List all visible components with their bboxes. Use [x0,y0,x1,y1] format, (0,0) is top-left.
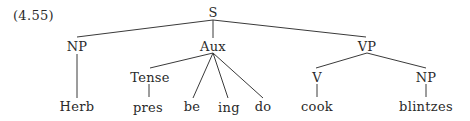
edge-s-np [77,20,213,37]
example-number: (4.55) [13,9,54,22]
edge-aux-be [193,53,213,98]
node-tense: Tense [130,71,170,84]
node-vp: VP [358,40,377,53]
leaf-herb: Herb [60,100,95,113]
leaf-cook: cook [301,100,333,113]
leaf-pres: pres [133,101,163,114]
leaf-be: be [184,100,201,113]
leaf-ing: ing [218,101,240,114]
syntax-tree-diagram: (4.55) S NP Aux VP Tense V NP Herb pres … [0,0,470,121]
node-np-object: NP [416,71,437,84]
node-s: S [208,6,217,19]
node-np-subject: NP [67,40,88,53]
edge-vp-np [367,53,426,68]
node-aux: Aux [200,40,226,53]
node-v: V [312,71,322,84]
edge-s-vp [213,20,366,37]
leaf-blintzes: blintzes [399,100,453,113]
edge-aux-tense [150,53,213,68]
edge-vp-v [316,53,367,68]
leaf-do: do [255,100,272,113]
